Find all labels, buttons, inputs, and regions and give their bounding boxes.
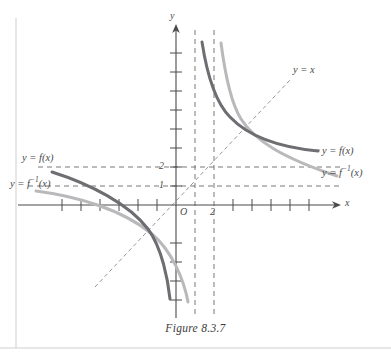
- y-tick-label-2: 2: [159, 160, 164, 171]
- identity-line-y-equals-x: [95, 80, 290, 287]
- finv-right-suffix: (x): [351, 167, 363, 178]
- finv-right-superscript: −1: [342, 164, 351, 173]
- figure-container: y x O 2 1 2 y = x y = f(x) y = f−1(x) y …: [0, 0, 391, 358]
- x-tick-label-2: 2: [210, 206, 215, 217]
- curve-f: [52, 42, 318, 299]
- origin-label: O: [180, 206, 187, 217]
- finv-left-superscript: −1: [30, 175, 39, 184]
- finv-left-prefix: y = f: [10, 178, 30, 189]
- finv-left-suffix: (x): [39, 178, 51, 189]
- curve-f-inverse-label-right: y = f−1(x): [322, 164, 362, 178]
- finv-right-prefix: y = f: [322, 167, 342, 178]
- curve-f-inverse: [36, 43, 337, 302]
- curve-f-right-branch: [202, 42, 318, 151]
- figure-graphic: [0, 0, 391, 358]
- curve-f-inverse-lower-branch: [36, 191, 188, 302]
- curve-f-inverse-upper-branch: [221, 43, 337, 176]
- identity-line-label: y = x: [293, 64, 315, 75]
- curve-f-label-left: y = f(x): [22, 152, 54, 163]
- curve-f-inverse-label-left: y = f−1(x): [10, 175, 50, 189]
- figure-caption: Figure 8.3.7: [0, 322, 391, 334]
- y-axis-label: y: [170, 10, 174, 21]
- y-tick-label-1: 1: [159, 179, 164, 190]
- x-axis-label: x: [345, 197, 349, 208]
- curve-f-label-right: y = f(x): [322, 145, 354, 156]
- curve-f-left-branch: [52, 172, 170, 299]
